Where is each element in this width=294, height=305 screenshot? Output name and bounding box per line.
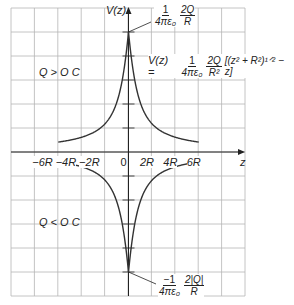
x-tick-label: −4R [56, 156, 77, 168]
y-axis-label: V(z) [106, 4, 126, 16]
x-tick-label: 0 [121, 156, 127, 168]
formula-annotation: V(z) = 14πε₀ 2QR² [(z² + R²)¹ᐟ² − z] [148, 54, 294, 78]
peak-frac1-num: 1 [162, 4, 170, 16]
formula-lhs: V(z) = [148, 54, 178, 78]
peak-annotation: 14πε₀ 2QR [154, 4, 195, 27]
curve-positive-right [129, 32, 199, 142]
axes [11, 7, 245, 296]
x-tick-label: −2R [79, 156, 100, 168]
x-tick-label: −6R [32, 156, 53, 168]
peak-frac2-den: R [183, 16, 192, 27]
peak-frac2-num: 2Q [180, 4, 195, 16]
formula-frac1-num: 1 [188, 55, 196, 67]
x-tick-label: 6R [187, 156, 201, 168]
peak-frac1-den: 4πε₀ [154, 16, 177, 27]
curve-negative-right [129, 162, 199, 272]
x-axis-label: z [240, 156, 246, 168]
curve-positive-left [58, 32, 128, 142]
formula-bracket: [(z² + R²)¹ᐟ² − z] [225, 55, 294, 77]
formula-frac2-den: R² [208, 67, 221, 78]
formula-frac1-den: 4πε₀ [181, 67, 204, 78]
trough-frac1-num: −1 [163, 274, 176, 286]
region-label-positive: Q > O C [39, 66, 80, 78]
x-tick-label: 4R [163, 156, 177, 168]
trough-frac2-den: R [190, 286, 199, 297]
trough-annotation: −14πε₀ 2|Q|R [158, 274, 204, 297]
chart-plot [0, 0, 294, 305]
trough-frac2-num: 2|Q| [184, 274, 205, 286]
x-tick-label: 2R [140, 156, 154, 168]
trough-frac1-den: 4πε₀ [158, 286, 181, 297]
formula-frac2-num: 2Q [206, 55, 221, 67]
region-label-negative: Q < O C [39, 216, 80, 228]
